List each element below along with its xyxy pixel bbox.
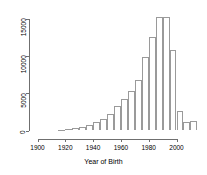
histogram-bar xyxy=(142,57,149,131)
y-axis-tick-label: 15000 xyxy=(21,18,28,36)
x-axis-tick xyxy=(65,139,66,142)
histogram-bar xyxy=(72,128,79,130)
histogram-bar xyxy=(79,127,86,131)
y-axis-tick-label: 0 xyxy=(21,130,28,134)
x-axis-tick-label: 1980 xyxy=(141,145,155,152)
histogram-bar xyxy=(177,111,184,130)
plot-area: 050001000015000 190019201940196019802000 xyxy=(0,0,207,175)
histogram-bar xyxy=(190,121,197,130)
x-axis-line xyxy=(38,139,177,140)
x-axis-tick-label: 2000 xyxy=(169,145,183,152)
histogram-bar xyxy=(121,99,128,131)
x-axis-tick xyxy=(38,139,39,142)
y-axis-tick-label: 5000 xyxy=(21,93,28,107)
x-axis-tick-label: 1920 xyxy=(58,145,72,152)
x-axis-tick-label: 1940 xyxy=(86,145,100,152)
x-axis-tick xyxy=(177,139,178,142)
histogram-bar xyxy=(156,17,163,130)
histogram-figure: 050001000015000 190019201940196019802000… xyxy=(0,0,207,175)
histogram-bar xyxy=(128,91,135,130)
histogram-bar xyxy=(107,114,114,131)
histogram-bar xyxy=(86,125,93,130)
histogram-bar xyxy=(170,50,177,131)
histogram-bar xyxy=(114,106,121,131)
histogram-bar xyxy=(65,129,72,130)
x-axis-tick xyxy=(121,139,122,142)
histogram-bar xyxy=(93,122,100,131)
histogram-bar xyxy=(135,80,142,131)
y-axis-tick-label: 10000 xyxy=(21,56,28,74)
x-axis-tick-label: 1900 xyxy=(30,145,44,152)
x-axis-tick-label: 1960 xyxy=(114,145,128,152)
x-axis-tick xyxy=(149,139,150,142)
x-axis-title: Year of Birth xyxy=(0,158,207,166)
x-axis-tick xyxy=(93,139,94,142)
histogram-bar xyxy=(163,17,170,130)
y-axis-line xyxy=(29,19,30,131)
histogram-bar xyxy=(100,119,107,131)
histogram-bar xyxy=(58,130,65,131)
histogram-bar xyxy=(183,122,190,131)
histogram-bar xyxy=(149,37,156,130)
